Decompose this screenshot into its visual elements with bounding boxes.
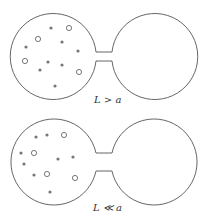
filled-particle <box>76 49 79 52</box>
top-particles <box>22 25 81 87</box>
filled-particle <box>48 190 51 193</box>
open-particle <box>61 132 66 137</box>
filled-particle <box>56 157 59 160</box>
open-particle <box>22 58 27 63</box>
filled-particle <box>34 135 37 138</box>
filled-particle <box>45 133 48 136</box>
top-diagram: L > a <box>10 13 198 105</box>
filled-particle <box>46 60 49 63</box>
open-particle <box>76 69 81 74</box>
bottom-vessel-outline <box>11 119 197 205</box>
filled-particle <box>49 26 52 29</box>
filled-particle <box>71 155 74 158</box>
bottom-particles <box>19 132 77 193</box>
filled-particle <box>32 173 35 176</box>
bottom-diagram: L ≪ a <box>11 119 197 213</box>
open-particle <box>31 150 36 155</box>
top-vessel-outline <box>10 13 198 99</box>
bottom-label: L ≪ a <box>92 202 122 213</box>
filled-particle <box>60 40 63 43</box>
open-particle <box>44 171 49 176</box>
filled-particle <box>53 84 56 87</box>
filled-particle <box>60 63 63 66</box>
top-label: L > a <box>93 94 121 105</box>
open-particle <box>35 36 40 41</box>
open-particle <box>72 175 77 180</box>
filled-particle <box>24 45 27 48</box>
filled-particle <box>38 68 41 71</box>
diagram-canvas: L > a L ≪ a <box>0 0 207 222</box>
open-particle <box>66 25 71 30</box>
filled-particle <box>22 162 25 165</box>
filled-particle <box>19 151 22 154</box>
